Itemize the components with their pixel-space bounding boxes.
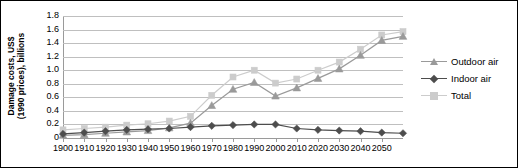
triangle-marker-icon (430, 58, 438, 65)
x-axis-tick-mark (84, 138, 85, 142)
legend-key (421, 89, 447, 103)
square-marker-icon (430, 92, 438, 100)
legend-key (421, 55, 447, 69)
diamond-marker-icon (430, 74, 438, 82)
data-point (250, 79, 258, 86)
data-point (336, 127, 343, 134)
y-axis-tick-label: 1.8 (35, 11, 59, 20)
y-axis-tick-label: 0.6 (35, 92, 59, 101)
data-point (251, 121, 258, 128)
data-point (294, 76, 300, 82)
x-axis-tick-mark (212, 138, 213, 142)
y-axis-tick-label: 0.8 (35, 79, 59, 88)
data-point (357, 52, 365, 59)
data-point (166, 118, 172, 124)
legend-item-indoor-air[interactable]: Indoor air (421, 70, 517, 87)
x-axis-tick-mark (339, 138, 340, 142)
y-axis-title-line-2: (1990 prices), billions (16, 33, 26, 119)
y-axis-tick-label: 0.2 (35, 119, 59, 128)
data-point (315, 67, 321, 73)
data-point (357, 128, 364, 135)
data-point (188, 113, 194, 119)
x-axis-tick-mark (191, 138, 192, 142)
data-point (399, 130, 406, 137)
x-axis-tick-mark (169, 138, 170, 142)
legend-item-total[interactable]: Total (421, 87, 517, 104)
y-axis-tick-label: 0 (35, 133, 59, 142)
x-axis-tick-mark (106, 138, 107, 142)
data-point (208, 122, 215, 129)
x-axis-tick-mark (361, 138, 362, 142)
x-axis-tick-label: 2050 (365, 143, 399, 153)
y-axis-tick-label: 1.0 (35, 65, 59, 74)
x-axis-tick-mark (127, 138, 128, 142)
data-point (314, 75, 322, 82)
series-indoor-air (59, 121, 406, 138)
plot-area (63, 16, 403, 138)
data-point (336, 59, 342, 65)
legend-label: Outdoor air (447, 56, 499, 67)
data-point (378, 129, 385, 136)
legend-label: Total (447, 90, 471, 101)
legend-key (421, 72, 447, 86)
x-axis-tick-mark (297, 138, 298, 142)
y-axis-tick-label: 1.4 (35, 38, 59, 47)
y-axis-tick-label: 1.6 (35, 25, 59, 34)
data-point (229, 122, 236, 129)
data-point (335, 65, 343, 72)
data-point (293, 84, 301, 91)
series-line (63, 32, 403, 130)
x-axis-tick-mark (148, 138, 149, 142)
x-axis-tick-mark (276, 138, 277, 142)
x-axis-tick-mark (233, 138, 234, 142)
legend-label: Indoor air (447, 73, 491, 84)
y-axis-tick-label: 1.2 (35, 52, 59, 61)
legend-item-outdoor-air[interactable]: Outdoor air (421, 53, 517, 70)
data-point (273, 80, 279, 86)
y-axis-title-line-1: Damage costs, US$ (6, 33, 16, 119)
data-point (293, 125, 300, 132)
x-axis-tick-mark (63, 138, 64, 142)
data-point (251, 67, 257, 73)
data-point (209, 92, 215, 98)
x-axis-tick-mark (382, 138, 383, 142)
x-axis-tick-mark (318, 138, 319, 142)
y-axis-title: Damage costs, US$ (1990 prices), billion… (1, 1, 31, 151)
data-point (314, 126, 321, 133)
chart-legend: Outdoor airIndoor airTotal (421, 53, 517, 104)
x-axis-tick-labels: 1900191019201930194019501960197019801990… (1, 143, 518, 159)
series-total (60, 29, 406, 133)
data-point (230, 74, 236, 80)
data-point (272, 121, 279, 128)
y-axis-tick-label: 0.4 (35, 106, 59, 115)
series-svg (63, 16, 403, 138)
chart-figure: Damage costs, US$ (1990 prices), billion… (0, 0, 518, 168)
x-axis-tick-mark (254, 138, 255, 142)
